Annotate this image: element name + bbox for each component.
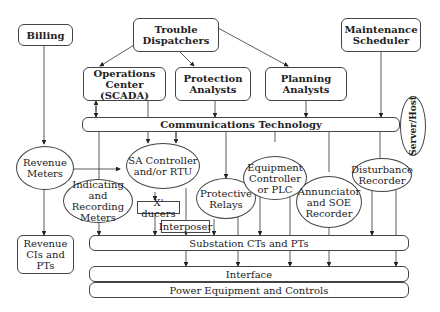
revenue-cts-pts-box: Revenue CIs and PTs (17, 235, 74, 274)
maintenance-scheduler-box: Maintenance Scheduler (341, 18, 421, 52)
interposer-box: Interposer (161, 220, 210, 233)
server-host-ellipse: Server/Host (400, 96, 426, 156)
server-host-label: Server/Host (408, 96, 419, 156)
interface-bar: Interface (89, 266, 409, 282)
disturbance-recorder-ellipse: Disturbance Recorder (352, 158, 412, 192)
power-equipment-bar: Power Equipment and Controls (89, 282, 409, 298)
operations-center-box: Operations Center (SCADA) (83, 67, 166, 101)
substation-cts-pts-bar: Substation CTs and PTs (89, 235, 409, 251)
communications-technology-bar: Communications Technology (82, 117, 400, 132)
indicating-recording-meters-ellipse: Indicating and Recording Meters (63, 179, 133, 223)
planning-analysts-box: Planning Analysts (265, 67, 347, 101)
billing-box: Billing (18, 24, 73, 46)
trouble-dispatchers-box: Trouble Dispatchers (133, 18, 219, 52)
protection-analysts-box: Protection Analysts (175, 67, 251, 101)
sa-controller-ellipse: SA Controller and/or RTU (126, 143, 200, 189)
xducers-box: X' ducers (137, 201, 180, 214)
